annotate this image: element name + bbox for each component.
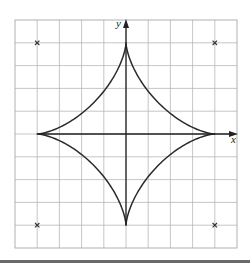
astroid-diagram: x y <box>0 0 250 263</box>
y-axis-label: y <box>115 17 121 29</box>
x-axis-label: x <box>230 133 236 145</box>
